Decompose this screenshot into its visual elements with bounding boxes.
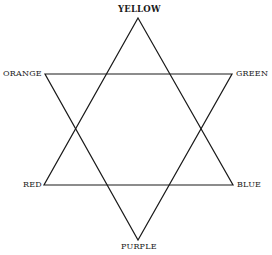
primary-triangle bbox=[44, 18, 233, 185]
label-orange: ORANGE bbox=[3, 69, 42, 79]
secondary-triangle bbox=[45, 74, 232, 240]
label-green: GREEN bbox=[236, 69, 268, 79]
label-blue: BLUE bbox=[237, 180, 261, 190]
label-purple: PURPLE bbox=[121, 242, 157, 252]
hexagram-diagram bbox=[0, 0, 272, 255]
label-red: RED bbox=[23, 180, 42, 190]
label-yellow: YELLOW bbox=[118, 4, 161, 14]
